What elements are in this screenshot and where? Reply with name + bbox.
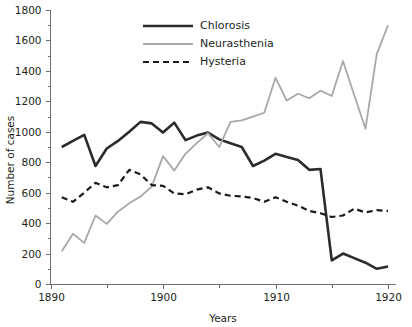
x-tick-label: 1900: [150, 291, 177, 303]
y-axis-title: Number of cases: [4, 116, 16, 205]
y-tick-label: 400: [21, 217, 41, 229]
y-tick-label: 1800: [15, 4, 42, 16]
y-tick-label: 1400: [15, 65, 42, 77]
legend-label-chlorosis: Chlorosis: [200, 19, 250, 32]
y-tick-label: 200: [21, 248, 41, 260]
chart-container: 020040060080010001200140016001800 189019…: [0, 0, 412, 327]
y-tick-label: 0: [35, 278, 42, 290]
x-axis-tick-labels: 1890190019101920: [38, 291, 402, 303]
series-line-hysteria: [62, 170, 388, 217]
x-tick-label: 1910: [263, 291, 290, 303]
y-axis-tick-labels: 020040060080010001200140016001800: [15, 4, 42, 290]
y-axis-ticks: [46, 11, 51, 285]
y-tick-label: 1200: [15, 95, 42, 107]
y-tick-label: 1600: [15, 34, 42, 46]
x-tick-label: 1920: [375, 291, 402, 303]
chart-legend: ChlorosisNeurastheniaHysteria: [143, 19, 274, 68]
x-tick-label: 1890: [38, 291, 65, 303]
legend-label-hysteria: Hysteria: [200, 55, 246, 68]
line-chart: 020040060080010001200140016001800 189019…: [0, 0, 412, 327]
x-axis-title: Years: [208, 312, 237, 324]
y-tick-label: 600: [21, 187, 41, 199]
y-tick-label: 1000: [15, 126, 42, 138]
legend-label-neurasthenia: Neurasthenia: [200, 37, 274, 50]
y-tick-label: 800: [21, 156, 41, 168]
